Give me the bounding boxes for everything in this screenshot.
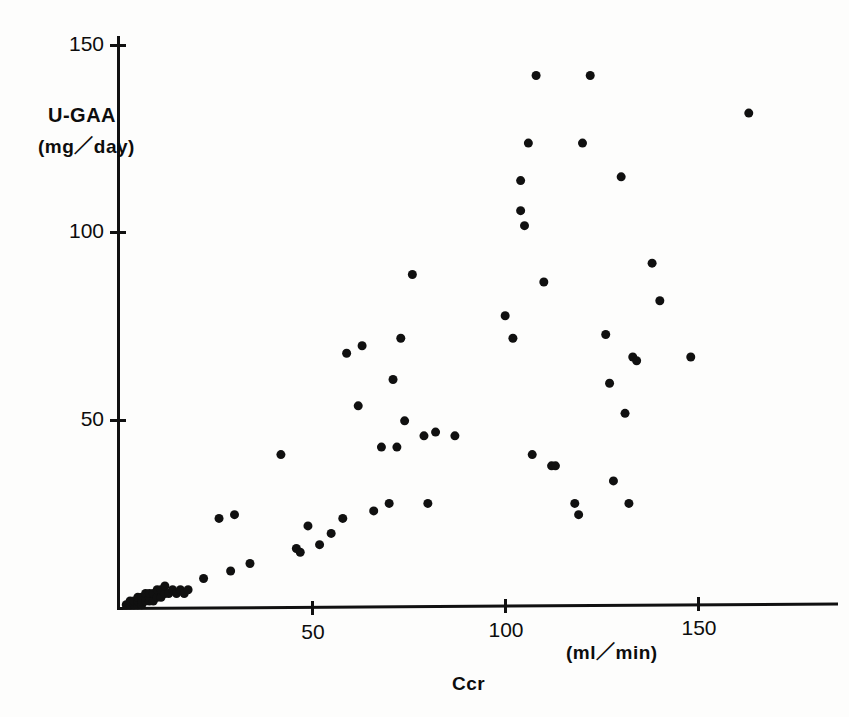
data-point: [516, 176, 525, 185]
data-point: [396, 334, 405, 343]
data-point: [338, 514, 347, 523]
data-point: [655, 296, 664, 305]
axis-lines: [110, 36, 838, 615]
data-point: [230, 510, 239, 519]
data-point: [226, 566, 235, 575]
data-point: [400, 416, 409, 425]
data-point: [184, 585, 193, 594]
data-point: [358, 341, 367, 350]
data-point: [215, 514, 224, 523]
data-point: [524, 139, 533, 148]
data-point: [392, 443, 401, 452]
data-point: [408, 270, 417, 279]
data-point: [516, 206, 525, 215]
data-point: [303, 521, 312, 530]
data-point: [276, 450, 285, 459]
data-point: [686, 353, 695, 362]
x-tick-label-150: 150: [669, 616, 729, 640]
data-point: [617, 172, 626, 181]
y-axis-label: U-GAA: [48, 104, 116, 127]
data-point: [601, 330, 610, 339]
x-axis-units: (ml／min): [566, 637, 658, 664]
data-point: [199, 574, 208, 583]
data-point: [539, 277, 548, 286]
data-point: [648, 259, 657, 268]
data-point: [578, 139, 587, 148]
data-point: [377, 443, 386, 452]
data-point: [574, 510, 583, 519]
data-point: [501, 311, 510, 320]
data-point: [586, 71, 595, 80]
data-point: [315, 540, 324, 549]
data-point: [508, 334, 517, 343]
data-point: [385, 499, 394, 508]
data-point: [431, 428, 440, 437]
data-point: [354, 401, 363, 410]
data-point: [621, 409, 630, 418]
y-tick-label-150: 150: [58, 32, 104, 56]
data-point: [520, 221, 529, 230]
data-point: [532, 71, 541, 80]
x-tick-label-100: 100: [476, 618, 536, 642]
data-point: [632, 356, 641, 365]
data-point: [342, 349, 351, 358]
data-point: [744, 109, 753, 118]
data-point: [327, 529, 336, 538]
data-point: [528, 450, 537, 459]
x-axis-label: Ccr: [452, 673, 485, 695]
plot-canvas: [0, 0, 849, 717]
data-point: [423, 499, 432, 508]
x-axis-line: [117, 604, 838, 609]
data-point: [450, 431, 459, 440]
data-point: [245, 559, 254, 568]
x-tick-label-50: 50: [283, 620, 343, 644]
data-point: [419, 431, 428, 440]
data-point: [624, 499, 633, 508]
data-point: [605, 379, 614, 388]
y-tick-label-50: 50: [58, 407, 104, 431]
y-axis-units: (mg／day): [38, 131, 135, 158]
scatter-plot-figure: 150 100 50 50 100 150 U-GAA (mg／day) Ccr…: [0, 0, 849, 717]
data-point: [296, 548, 305, 557]
data-point: [551, 461, 560, 470]
data-point: [570, 499, 579, 508]
data-point-group: [122, 71, 754, 609]
y-tick-label-100: 100: [58, 219, 104, 243]
data-point: [609, 476, 618, 485]
data-point: [369, 506, 378, 515]
data-point: [389, 375, 398, 384]
